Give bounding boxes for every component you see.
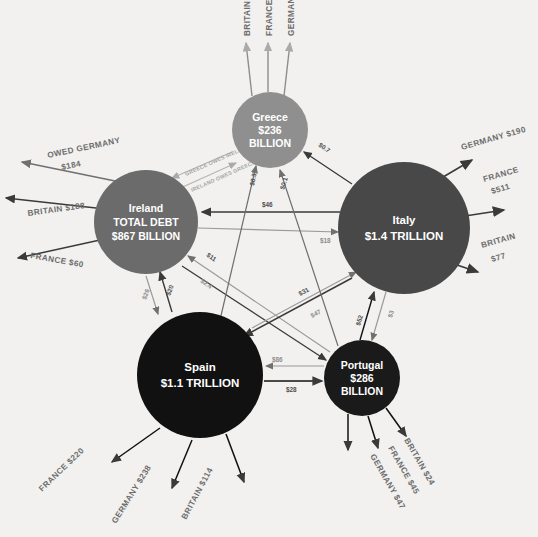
arrow-portugal-france	[368, 416, 378, 448]
node-italy-line1: Italy	[392, 214, 416, 226]
arrow-spain-britain	[226, 434, 244, 482]
node-spain-line1: Spain	[184, 361, 215, 373]
node-spain-line2: $1.1 TRILLION	[161, 377, 240, 389]
amt-italy-portugal: $3	[386, 309, 396, 318]
external-arrows-portugal: BRITAIN $24 FRANCE $45 GERMANY $47	[348, 408, 437, 511]
arrow-greece-britain	[246, 43, 252, 96]
node-ireland-line2: TOTAL DEBT	[113, 216, 179, 228]
ext-label-spain-1: GERMANY $238	[110, 463, 153, 525]
node-italy-line2: $1.4 TRILLION	[365, 230, 444, 242]
node-portugal-line3: BILLION	[341, 385, 383, 397]
node-circle-italy[interactable]	[338, 162, 470, 294]
internal-flow-spain-portugal: $86 $28	[264, 356, 324, 394]
ext-label-ireland-0b: $184	[61, 159, 82, 172]
node-greece[interactable]: Greece $236 BILLION	[232, 92, 308, 168]
amt-portugal-ireland: $2.4	[199, 277, 214, 291]
amt-portugal-italy: $52	[354, 314, 365, 327]
amt-greece-spain: $0.3	[248, 172, 259, 186]
ext-label-spain-2: BRITAIN $114	[180, 466, 215, 521]
amt-ireland-italy: $18	[320, 237, 331, 245]
network-canvas: BRITAIN $15 FRANCE $75 GERMANY $45 OWED …	[0, 0, 538, 537]
arrow-spain-france	[112, 428, 160, 462]
amt-spain-portugal: $86	[272, 356, 283, 364]
arrow-greece-germany	[284, 43, 290, 96]
amt-portugal-spain: $28	[286, 386, 297, 394]
arrow-spain-to-greece	[220, 166, 256, 320]
ext-label-ireland-0: OWED GERMANY	[47, 136, 122, 160]
ext-label-spain-0: FRANCE $220	[37, 446, 86, 493]
node-greece-line3: BILLION	[249, 137, 291, 149]
internal-flow-greece-spain: $0.3	[220, 166, 259, 320]
arrow-spain-germany	[172, 440, 192, 488]
internal-flow-italy-portugal: $3 $52	[354, 292, 396, 340]
node-circle-spain[interactable]	[137, 312, 263, 438]
node-portugal-line1: Portugal	[341, 359, 384, 371]
node-ireland-line3: $867 BILLION	[112, 230, 180, 242]
ext-label-italy-1: FRANCE	[482, 165, 520, 184]
external-arrows-greece: BRITAIN $15 FRANCE $75 GERMANY $45	[243, 0, 296, 96]
node-portugal[interactable]: Portugal $286 BILLION	[324, 340, 400, 416]
ext-label-greece-1: FRANCE $75	[265, 0, 274, 36]
amt-italy-ireland: $46	[262, 201, 273, 209]
amt-greece-portugal: $0.1	[278, 176, 290, 191]
internal-flow-greece-portugal: $0.1	[278, 170, 338, 346]
arrow-spain-to-italy	[252, 272, 356, 328]
arrow-italy-to-greece	[304, 152, 352, 184]
ext-label-italy-2b: $77	[490, 251, 507, 264]
arrow-ireland-to-italy	[198, 228, 338, 232]
node-italy[interactable]: Italy $1.4 TRILLION	[338, 162, 470, 294]
ext-label-ireland-2: FRANCE $60	[30, 251, 85, 269]
node-portugal-line2: $286	[350, 372, 374, 384]
amt-greece-italy: $0.7	[317, 141, 332, 155]
ext-label-italy-2: BRITAIN	[480, 232, 517, 250]
ext-label-italy-0: GERMANY $190	[460, 125, 527, 152]
internal-flow-italy-spain: $31 $47	[244, 272, 356, 336]
node-spain[interactable]: Spain $1.1 TRILLION	[137, 312, 263, 438]
node-greece-line1: Greece	[252, 111, 288, 123]
ext-label-italy-1b: $511	[490, 182, 511, 196]
node-ireland[interactable]: Ireland TOTAL DEBT $867 BILLION	[94, 170, 198, 274]
ext-label-greece-0: BRITAIN $15	[243, 0, 252, 36]
amt-spain-italy: $47	[309, 307, 323, 319]
amt-ireland-portugal: $11	[205, 251, 218, 264]
arrow-portugal-britain	[386, 408, 406, 436]
arrow-italy-to-spain	[244, 278, 352, 336]
internal-flow-italy-ireland: $46 $18	[198, 201, 340, 245]
internal-flow-ireland-spain: $20 $26	[140, 272, 175, 314]
arrow-italy-to-portugal	[372, 292, 386, 340]
ext-label-greece-2: GERMANY $45	[287, 0, 296, 36]
internal-flow-greece-italy: $0.7	[304, 141, 352, 184]
arrow-portugal-to-greece	[280, 170, 338, 346]
amt-ireland-spain: $20	[164, 284, 175, 297]
node-ireland-line1: Ireland	[129, 202, 163, 214]
external-arrows-spain: FRANCE $220 GERMANY $238 BRITAIN $114	[37, 428, 244, 525]
debt-network-diagram: BRITAIN $15 FRANCE $75 GERMANY $45 OWED …	[0, 0, 538, 537]
amt-italy-spain: $31	[297, 285, 311, 297]
node-greece-line2: $236	[258, 124, 282, 136]
